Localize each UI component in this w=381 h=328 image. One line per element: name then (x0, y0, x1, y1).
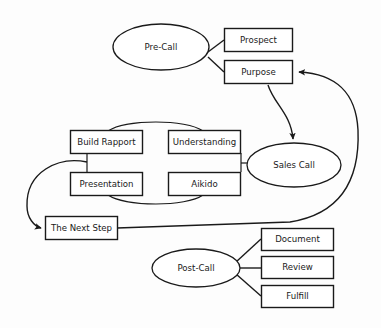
build-rapport-label: Build Rapport (77, 137, 136, 147)
node-post-call[interactable]: Post-Call (152, 249, 240, 287)
node-review[interactable]: Review (262, 257, 334, 279)
understanding-label: Understanding (173, 137, 236, 147)
purpose-label: Purpose (241, 67, 276, 77)
edge-purpose-salescall (268, 85, 293, 139)
edge-postcall-document (236, 239, 261, 262)
flowchart-diagram: Pre-Call Prospect Purpose Build Rapport … (0, 0, 381, 328)
node-build-rapport[interactable]: Build Rapport (71, 131, 143, 154)
edge-precall-purpose (208, 57, 224, 72)
edge-precall-prospect (208, 40, 224, 52)
node-pre-call[interactable]: Pre-Call (113, 24, 209, 70)
presentation-label: Presentation (80, 179, 134, 189)
fulfill-label: Fulfill (286, 291, 309, 301)
node-document[interactable]: Document (262, 229, 334, 251)
next-step-label: The Next Step (50, 223, 112, 233)
node-understanding[interactable]: Understanding (169, 131, 241, 154)
node-aikido[interactable]: Aikido (169, 173, 241, 196)
node-next-step[interactable]: The Next Step (46, 217, 118, 240)
node-prospect[interactable]: Prospect (225, 29, 293, 52)
node-sales-call[interactable]: Sales Call (247, 143, 341, 187)
node-presentation[interactable]: Presentation (71, 173, 143, 196)
edge-postcall-fulfill (236, 274, 261, 296)
review-label: Review (282, 262, 313, 272)
diagram-canvas: Pre-Call Prospect Purpose Build Rapport … (0, 0, 381, 328)
prospect-label: Prospect (240, 35, 278, 45)
document-label: Document (275, 234, 320, 244)
edge-presentation-aikido (108, 195, 203, 204)
post-call-label: Post-Call (177, 263, 214, 273)
node-fulfill[interactable]: Fulfill (262, 286, 334, 308)
edge-buildrapport-understanding (108, 122, 203, 131)
pre-call-label: Pre-Call (145, 42, 178, 52)
node-purpose[interactable]: Purpose (225, 61, 293, 84)
sales-call-label: Sales Call (273, 160, 315, 170)
aikido-label: Aikido (191, 179, 217, 189)
